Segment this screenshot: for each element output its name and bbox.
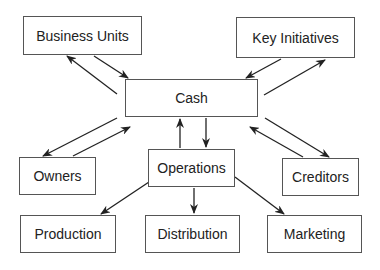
arrow-cash-to-creditors (265, 118, 329, 157)
arrow-cash-to-business-units (67, 56, 117, 94)
node-label: Operations (157, 160, 225, 176)
node-label: Creditors (292, 169, 349, 185)
node-label: Distribution (157, 226, 227, 242)
node-business-units: Business Units (23, 16, 142, 55)
arrow-key-initiatives-to-cash (246, 59, 281, 78)
node-marketing: Marketing (267, 215, 362, 253)
arrow-creditors-to-cash (250, 127, 303, 157)
node-owners: Owners (19, 157, 96, 195)
arrow-owners-to-cash (73, 127, 130, 156)
node-distribution: Distribution (145, 215, 240, 253)
node-key-initiatives: Key Initiatives (236, 17, 355, 58)
node-creditors: Creditors (282, 158, 359, 196)
node-label: Business Units (36, 28, 129, 44)
node-label: Cash (175, 90, 208, 106)
node-label: Marketing (284, 226, 345, 242)
arrow-cash-to-owners (43, 118, 117, 156)
node-cash: Cash (125, 79, 258, 117)
arrow-business-units-to-cash (94, 56, 128, 78)
node-label: Key Initiatives (252, 30, 338, 46)
node-operations: Operations (148, 149, 235, 187)
node-label: Production (35, 226, 102, 242)
arrow-operations-to-production (101, 182, 149, 214)
node-label: Owners (33, 168, 81, 184)
arrow-cash-to-key-initiatives (264, 60, 325, 95)
arrow-operations-to-marketing (235, 177, 284, 214)
node-production: Production (20, 215, 116, 253)
